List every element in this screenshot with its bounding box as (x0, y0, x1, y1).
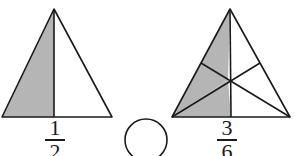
fraction-numerator-right: 3 (206, 118, 248, 138)
left-triangle-group (2, 9, 112, 117)
fraction-numerator-left: 1 (34, 118, 76, 138)
figure-canvas: 1 2 3 6 (0, 0, 295, 156)
fraction-denominator-right: 6 (206, 142, 248, 156)
right-triangle-group (172, 9, 290, 117)
fraction-label-left: 1 2 (34, 118, 76, 156)
fraction-denominator-left: 2 (34, 142, 76, 156)
right-triangle-median-apex (230, 9, 231, 117)
comparison-blank-circle[interactable] (125, 119, 167, 156)
fraction-label-right: 3 6 (206, 118, 248, 156)
